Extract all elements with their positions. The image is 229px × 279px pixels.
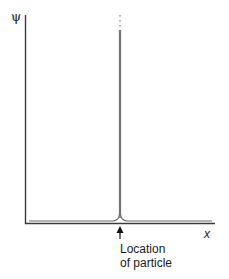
- continuation-dots: [119, 15, 120, 27]
- annotation-line-2: of particle: [120, 256, 172, 270]
- wavefunction-diagram: [0, 0, 229, 279]
- y-axis-label: ψ: [11, 10, 21, 23]
- arrow-up-icon: [117, 226, 124, 239]
- x-axis-label: x: [204, 228, 210, 240]
- particle-location-annotation: Location of particle: [120, 242, 172, 270]
- annotation-line-1: Location: [120, 242, 172, 256]
